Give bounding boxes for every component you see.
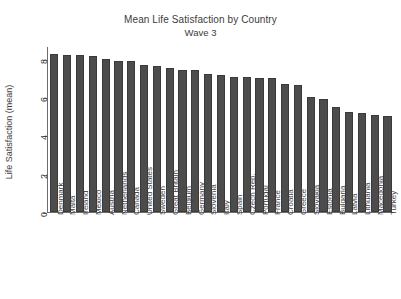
bar[interactable] bbox=[217, 75, 225, 212]
y-axis-label-text: Life Satisfaction (mean) bbox=[4, 84, 14, 179]
bar[interactable] bbox=[76, 55, 84, 212]
x-tick-label-text: Ireland bbox=[82, 191, 90, 215]
x-tick-label-text: Canada bbox=[133, 187, 141, 215]
x-tick-label-text: Germany bbox=[198, 182, 206, 215]
x-tick-label-text: Lithuania bbox=[364, 183, 372, 215]
chart-figure: Mean Life Satisfaction by Country Wave 3… bbox=[0, 0, 401, 299]
x-tick-label-text: Austria bbox=[108, 190, 116, 215]
x-tick-label-text: France bbox=[274, 190, 282, 215]
x-tick-label-text: Denmark bbox=[57, 183, 65, 215]
x-axis-tick-labels: DenmarkMaltaIrelandMexicoAustriaNetherla… bbox=[47, 215, 394, 299]
x-tick-label-text: Sweden bbox=[159, 186, 167, 215]
bar[interactable] bbox=[89, 56, 97, 212]
x-tick-label-text: Netherlands bbox=[121, 172, 129, 215]
x-tick-label-text: Greece bbox=[300, 189, 308, 215]
x-tick-label-text: Portugal bbox=[262, 185, 270, 215]
x-tick-label-text: Great Britain bbox=[172, 170, 180, 215]
title-block: Mean Life Satisfaction by Country Wave 3 bbox=[0, 13, 401, 39]
x-tick-label-text: Latvia bbox=[351, 194, 359, 215]
x-tick-label-text: Slovenia bbox=[210, 184, 218, 215]
x-tick-label-text: Mexico bbox=[95, 190, 103, 215]
x-tick-label-text: Italy bbox=[223, 200, 231, 215]
x-tick-label-text: Malta bbox=[69, 195, 77, 215]
y-axis-label: Life Satisfaction (mean) bbox=[2, 50, 16, 213]
x-tick-label-text: Estonia bbox=[326, 188, 334, 215]
x-tick-label-text: Turkey bbox=[390, 191, 398, 215]
chart-subtitle: Wave 3 bbox=[0, 26, 401, 39]
x-tick-label-text: Belgium bbox=[185, 186, 193, 215]
x-tick-label-text: Bulgaria bbox=[339, 186, 347, 215]
bar[interactable] bbox=[230, 77, 238, 212]
x-tick-label-text: United States bbox=[146, 167, 154, 215]
x-tick-label-text: Czech Rep. bbox=[249, 173, 257, 215]
x-tick-label-text: Macedonia bbox=[377, 176, 385, 215]
x-tick-label-text: Slovakia bbox=[313, 185, 321, 215]
x-tick-label-text: Spain bbox=[236, 195, 244, 215]
page-title: Mean Life Satisfaction by Country bbox=[0, 13, 401, 26]
x-tick-label-text: Croatia bbox=[287, 189, 295, 215]
